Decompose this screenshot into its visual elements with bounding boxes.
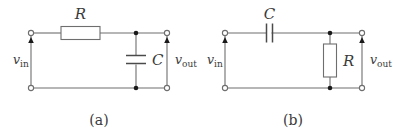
vin-a-subscript: in — [20, 59, 29, 69]
vin-b-label: vin — [207, 52, 223, 69]
circuit-b: C R vin vout (b) — [207, 5, 392, 128]
vout-b-label: vout — [370, 52, 392, 69]
caption-b: (b) — [283, 112, 303, 128]
resistor-b-label: R — [342, 52, 354, 70]
terminal-a-in-bottom — [28, 85, 33, 90]
resistor-b-body — [324, 44, 337, 77]
vout-a-symbol: v — [175, 52, 182, 67]
terminal-b-in-bottom — [222, 85, 227, 90]
resistor-a-body — [61, 27, 100, 40]
svg-text:vout: vout — [370, 52, 392, 69]
vin-b-symbol: v — [207, 52, 214, 67]
svg-text:vin: vin — [13, 52, 29, 69]
junction-a-top — [134, 31, 139, 36]
svg-text:vin: vin — [207, 52, 223, 69]
terminal-b-out-bottom — [359, 85, 364, 90]
terminal-b-in-top — [222, 30, 227, 35]
terminal-a-out-bottom — [164, 85, 169, 90]
arrow-a-vout — [164, 37, 170, 43]
arrow-b-vout — [359, 37, 365, 43]
terminal-a-in-top — [28, 30, 33, 35]
capacitor-a-label: C — [152, 51, 164, 69]
vout-a-subscript: out — [182, 59, 197, 69]
circuit-a: R C vin vout (a) — [13, 5, 197, 128]
terminal-b-out-top — [359, 30, 364, 35]
resistor-a-label: R — [74, 5, 86, 23]
junction-a-bottom — [134, 86, 139, 91]
vout-b-subscript: out — [377, 59, 392, 69]
terminal-a-out-top — [164, 30, 169, 35]
arrow-a-vin — [28, 37, 34, 43]
junction-b-bottom — [328, 86, 333, 91]
circuit-diagram-canvas: R C vin vout (a) — [0, 0, 393, 139]
arrow-b-vin — [222, 37, 228, 43]
junction-b-top — [328, 31, 333, 36]
vout-b-symbol: v — [370, 52, 377, 67]
capacitor-b-label: C — [264, 5, 276, 23]
svg-text:vout: vout — [175, 52, 197, 69]
vin-b-subscript: in — [214, 59, 223, 69]
vin-a-symbol: v — [13, 52, 20, 67]
vout-a-label: vout — [175, 52, 197, 69]
caption-a: (a) — [89, 112, 108, 128]
vin-a-label: vin — [13, 52, 29, 69]
circuit-figure: R C vin vout (a) — [0, 0, 393, 139]
